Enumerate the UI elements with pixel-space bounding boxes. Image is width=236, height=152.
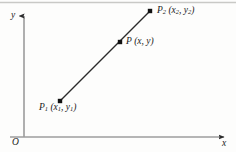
point-label-p-coords: (x, y) xyxy=(134,36,154,46)
point-label-p1: P1 (x1, y1) xyxy=(39,103,76,113)
point-marker-p xyxy=(118,40,122,44)
origin-label: O xyxy=(12,138,19,148)
point-label-p2-coords-mid: , y xyxy=(179,5,188,15)
point-label-p1-coords-close: ) xyxy=(73,102,76,112)
point-label-p2-coords-close: ) xyxy=(191,5,194,15)
point-label-p1-coords-mid: , y xyxy=(61,102,70,112)
point-label-p1-coords-open: (x xyxy=(50,102,57,112)
point-label-p: P (x, y) xyxy=(126,37,154,47)
y-axis-label: y xyxy=(11,11,15,21)
point-label-p2-coords-open: (x xyxy=(168,5,175,15)
line-segment-p1-p2 xyxy=(60,11,150,101)
figure-canvas: y x O P2 (x2, y2) P (x, y) P1 (x1, y1) xyxy=(0,0,236,152)
x-axis-label: x xyxy=(222,139,226,149)
diagram-svg xyxy=(0,0,236,152)
point-label-p2: P2 (x2, y2) xyxy=(157,6,194,16)
point-marker-p2 xyxy=(148,9,152,13)
